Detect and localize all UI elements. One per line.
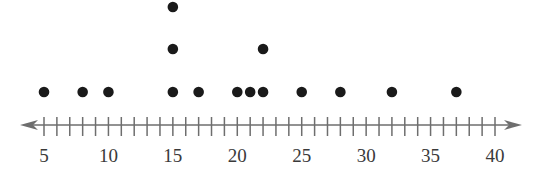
tick-label: 20 [228,145,247,166]
data-dot [245,87,256,98]
data-dot [168,44,179,55]
tick-label: 5 [39,145,49,166]
data-dot [77,87,88,98]
tick-labels: 510152025303540 [39,145,504,166]
tick-label: 25 [292,145,311,166]
data-dot [103,87,114,98]
data-dot [39,87,50,98]
data-dot [387,87,398,98]
data-dot [258,87,269,98]
data-dot [296,87,307,98]
tick-label: 35 [421,145,440,166]
tick-label: 10 [99,145,118,166]
data-dot [258,44,269,55]
tick-label: 30 [357,145,376,166]
data-dot [168,87,179,98]
tick-label: 15 [163,145,182,166]
data-dot [168,2,179,13]
data-dot [193,87,204,98]
tick-marks [44,117,495,136]
data-dot [335,87,346,98]
data-dots [39,2,462,98]
tick-label: 40 [486,145,505,166]
data-dot [451,87,462,98]
data-dot [232,87,243,98]
dot-plot: 510152025303540 [0,0,549,180]
